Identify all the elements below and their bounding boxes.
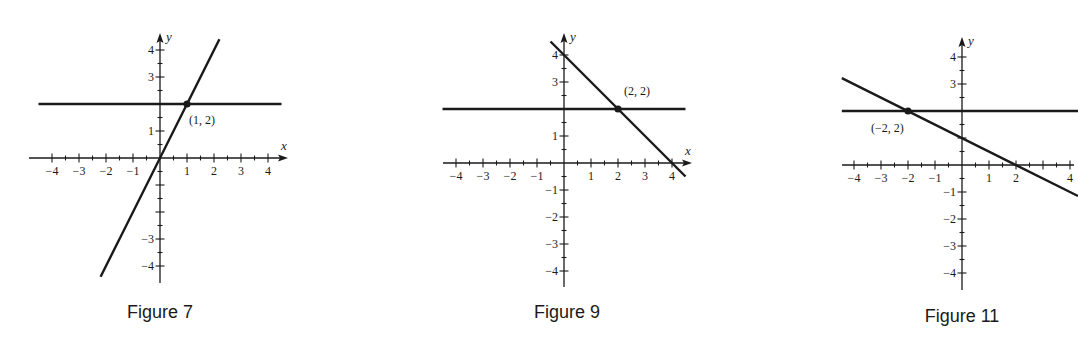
figure-11-caption: Figure 11 [925,306,1000,327]
y-tick-label: 4 [950,50,956,64]
intersection-point-label: (−2, 2) [871,121,904,135]
y-tick-label: 3 [950,77,956,91]
y-tick-label: −3 [943,239,956,253]
x-tick-label: −4 [848,171,861,185]
y-tick-label: −4 [943,266,956,280]
y-axis-label: y [966,33,974,48]
intersection-point [904,107,911,114]
figure-11-graph: −4−3−2−112443−1−2−3−4y(−2, 2) [0,0,1078,347]
x-tick-label: −2 [902,171,915,185]
figure-11: −4−3−2−112443−1−2−3−4y(−2, 2) Figure 11 [0,0,1078,347]
y-axis: 43−1−2−3−4y [943,33,974,290]
x-axis: −4−3−2−1124 [842,161,1074,186]
x-tick-label: 2 [1013,171,1019,185]
x-tick-label: −1 [929,171,942,185]
x-tick-label: 1 [986,171,992,185]
y-tick-label: −2 [943,212,956,226]
x-tick-label: 4 [1067,171,1073,185]
x-tick-label: −3 [875,171,888,185]
y-tick-label: −1 [943,185,956,199]
